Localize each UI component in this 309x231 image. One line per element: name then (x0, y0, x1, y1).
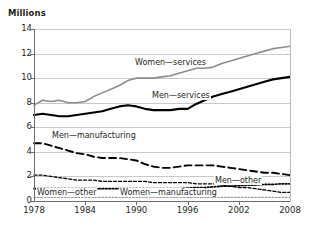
y-axis-tick-label: 4 (10, 147, 32, 156)
y-axis-tick-label: 8 (10, 98, 32, 107)
x-axis-tick-label: 1984 (65, 205, 105, 215)
series-label-men-manufacturing: Men—manufacturing (51, 131, 137, 140)
series-label-men-services: Men—services (151, 91, 211, 100)
y-axis-tick-mark (30, 201, 34, 202)
series-label-women-other: Women—other (36, 188, 97, 197)
x-axis-tick-mark (136, 202, 137, 205)
x-axis-tick-label: 1996 (168, 205, 208, 215)
y-axis-tick-mark (30, 152, 34, 153)
series-label-women-manufacturing: Women—manufacturing (119, 188, 218, 197)
y-axis-tick-mark (30, 78, 34, 79)
x-axis-tick-label: 1978 (14, 205, 54, 215)
x-axis-tick-mark (85, 202, 86, 205)
y-axis-tick-label: 10 (10, 73, 32, 82)
y-axis-tick-mark (30, 127, 34, 128)
series-line-men-manufacturing (34, 143, 290, 175)
y-axis-tick-label: 6 (10, 122, 32, 131)
y-axis-tick-label: 2 (10, 171, 32, 180)
y-axis-tick-mark (30, 29, 34, 30)
line-chart: Millions 02468101214 1978198419901996200… (0, 0, 309, 231)
y-axis-tick-mark (30, 54, 34, 55)
series-label-women-services: Women—services (134, 58, 207, 67)
x-axis-tick-label: 2002 (219, 205, 259, 215)
series-label-men-other: Men—other (214, 176, 262, 185)
x-axis-tick-mark (188, 202, 189, 205)
x-axis-tick-label: 1990 (116, 205, 156, 215)
y-axis-line (34, 29, 35, 202)
plot-right-border (290, 29, 291, 202)
y-axis-tick-mark (30, 103, 34, 104)
x-axis-line (34, 201, 291, 202)
y-axis-tick-label: 12 (10, 49, 32, 58)
y-axis-tick-mark (30, 176, 34, 177)
x-axis-tick-label: 2008 (270, 205, 309, 215)
y-axis-tick-label: 14 (10, 24, 32, 33)
x-axis-tick-mark (239, 202, 240, 205)
y-axis-tick-label: 0 (10, 196, 32, 205)
y-axis-title: Millions (8, 8, 46, 18)
